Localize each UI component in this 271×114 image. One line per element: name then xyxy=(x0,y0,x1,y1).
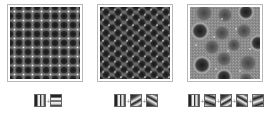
horizontal-grating-icon xyxy=(50,94,62,107)
diagonal-grating-120-icon xyxy=(146,94,158,107)
diagonal-grating-60-icon xyxy=(220,94,232,107)
quasicrystal-lattice-texture xyxy=(190,7,260,79)
filter-set-hexagonal: + + xyxy=(114,93,158,107)
square-lattice-texture xyxy=(10,7,80,79)
panel-hexagonal-lattice xyxy=(97,4,173,82)
vertical-grating-icon xyxy=(34,94,46,107)
diagonal-grating-30-icon xyxy=(204,94,216,107)
hexagonal-lattice-texture xyxy=(100,7,170,79)
vertical-grating-icon xyxy=(188,94,200,107)
panel-quasicrystal-lattice xyxy=(187,4,263,82)
vertical-grating-icon xyxy=(114,94,126,107)
filter-set-square: + xyxy=(34,93,62,107)
diagonal-grating-150-icon xyxy=(252,94,264,107)
panel-square-lattice xyxy=(7,4,83,82)
diagonal-grating-120-icon xyxy=(236,94,248,107)
filter-set-quasicrystal: + + + + xyxy=(188,93,264,107)
diagonal-grating-60-icon xyxy=(130,94,142,107)
